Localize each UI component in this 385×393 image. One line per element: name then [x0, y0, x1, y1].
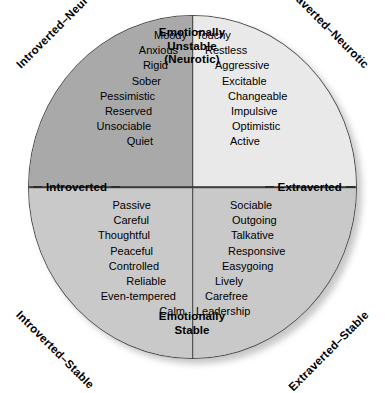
- axis-tick-right-outer: [346, 186, 355, 188]
- trait-word: Rigid: [97, 58, 168, 73]
- pole-label-neurotic-line1: Emotionally: [159, 26, 225, 40]
- pole-label-stable: Emotionally Stable: [159, 310, 225, 337]
- pole-label-extraverted-text: Extraverted: [278, 181, 342, 193]
- axis-tick-left-inner: [111, 186, 120, 188]
- trait-word: Impulsive: [231, 104, 287, 119]
- pole-label-extraverted: Extraverted: [265, 181, 355, 193]
- trait-word: Peaceful: [98, 244, 153, 259]
- trait-word: Outgoing: [232, 213, 285, 228]
- trait-word: Aggressive: [215, 58, 287, 73]
- trait-word: Carefree: [205, 289, 285, 304]
- trait-list-introverted-stable: PassiveCarefulThoughtfulPeacefulControll…: [98, 198, 185, 320]
- trait-word: Thoughtful: [98, 228, 150, 243]
- pole-label-neurotic-line2: Unstable: [159, 40, 225, 54]
- pole-label-introverted-text: Introverted: [46, 181, 107, 193]
- axis-tick-left-outer: [33, 186, 42, 188]
- pole-label-introverted: Introverted: [33, 181, 120, 193]
- trait-word: Changeable: [228, 89, 287, 104]
- pole-label-stable-line1: Emotionally: [159, 310, 225, 324]
- trait-word: Optimistic: [232, 119, 287, 134]
- trait-word: Sober: [97, 74, 161, 89]
- trait-word: Responsive: [228, 244, 285, 259]
- pole-label-stable-line2: Stable: [159, 324, 225, 338]
- trait-word: Quiet: [97, 134, 153, 149]
- trait-word: Careful: [98, 213, 149, 228]
- trait-word: Talkative: [231, 228, 285, 243]
- trait-word: Sociable: [230, 198, 285, 213]
- trait-list-extraverted-stable: SociableOutgoingTalkativeResponsiveEasyg…: [196, 198, 285, 320]
- trait-word: Unsociable: [97, 119, 151, 134]
- trait-word: Active: [230, 134, 287, 149]
- pole-label-neurotic-line3: (Neurotic): [159, 53, 225, 67]
- trait-word: Even-tempered: [98, 289, 176, 304]
- trait-word: Lively: [215, 274, 285, 289]
- pole-label-neurotic: Emotionally Unstable (Neurotic): [159, 26, 225, 67]
- trait-word: Pessimistic: [97, 89, 155, 104]
- trait-word: Controlled: [98, 259, 159, 274]
- trait-word: Passive: [98, 198, 151, 213]
- trait-word: Reserved: [97, 104, 152, 119]
- trait-word: Reliable: [98, 274, 166, 289]
- axis-tick-right-inner: [265, 186, 274, 188]
- trait-word: Easygoing: [222, 259, 285, 274]
- trait-word: Excitable: [222, 74, 287, 89]
